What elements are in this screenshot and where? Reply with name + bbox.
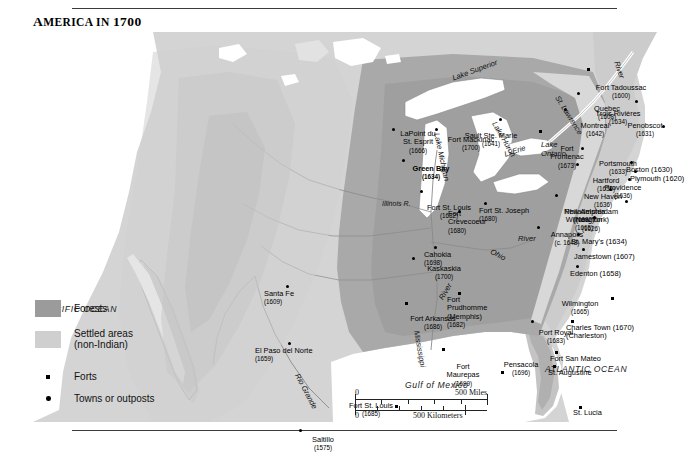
place-label: St. Augustine: [548, 369, 592, 377]
scale-tick: [465, 405, 466, 415]
legend-label-forts: Forts: [74, 371, 97, 382]
place-label: LaPoint duSt. Esprit(1666): [400, 130, 435, 155]
place-year: (1685): [362, 410, 380, 417]
place-label: Fort Arkansas(1686): [410, 315, 456, 332]
place-year: (1700): [435, 273, 453, 280]
title-year: 1700: [113, 14, 142, 29]
place-year: (1634): [609, 118, 627, 125]
place-year: (1634): [422, 173, 440, 180]
place-label: Green Bay(1634): [413, 165, 450, 182]
place-year: (1665): [571, 308, 589, 315]
scale-tick: [381, 399, 382, 404]
town-marker-sample: [35, 390, 61, 407]
place-year: (1600): [612, 92, 630, 99]
place-year: (1680): [479, 215, 497, 222]
legend-item-forests: Forests: [35, 300, 107, 317]
scale-miles-zero: 0: [355, 388, 359, 397]
place-label: Fort Tadoussac(1600): [596, 84, 646, 101]
town-marker: [662, 125, 665, 128]
legend-label-towns: Towns or outposts: [74, 393, 155, 404]
place-label: Montreal(1642): [581, 122, 610, 139]
scale-tick: [399, 406, 400, 411]
fort-marker: [395, 405, 398, 408]
place-year: (1633): [609, 168, 627, 175]
place-label: Edenton (1658): [570, 270, 621, 278]
legend-label-forests: Forests: [74, 303, 107, 314]
legend-label-settled: Settled areas (non-Indian): [74, 328, 133, 350]
place-label: Charles Town (1670)(Charleston): [566, 324, 634, 341]
place-year: (1575): [314, 444, 332, 451]
legend-item-settled: Settled areas (non-Indian): [35, 328, 133, 350]
water-label: River: [518, 234, 536, 243]
place-year: (1699): [454, 380, 472, 387]
title-initial: A: [33, 14, 43, 29]
place-label: Wilmington(1665): [562, 300, 599, 317]
fort-marker: [442, 348, 445, 351]
place-label: Fort San Mateo: [550, 355, 601, 363]
scale-tick: [408, 399, 409, 404]
place-year: (1700): [462, 144, 480, 151]
fort-marker: [611, 297, 614, 300]
title-text: MERICA IN: [43, 16, 113, 28]
place-year: (1609): [264, 298, 282, 305]
fort-marker: [587, 68, 590, 71]
place-label: Fort St. Joseph(1680): [479, 207, 529, 224]
place-year: (1680): [448, 227, 466, 234]
top-rule: [72, 8, 617, 9]
legend-label-settled-line1: Settled areas: [74, 328, 133, 339]
water-label: Illinois R.: [382, 200, 410, 207]
bottom-rule: [72, 430, 617, 431]
place-label: Penobscot(1631): [628, 122, 663, 139]
place-label: Port Royal(1683): [539, 329, 574, 346]
place-label: FortFrontenac(1673): [550, 145, 583, 170]
page-title: AMERICA IN 1700: [33, 14, 142, 30]
scale-line-miles: [355, 399, 487, 400]
scale-tick: [434, 399, 435, 404]
scale-tick: [377, 406, 378, 411]
settled-swatch: [35, 331, 61, 348]
place-year: (1666): [409, 147, 427, 154]
place-label: Fort St. Louis(1682): [427, 204, 471, 221]
fort-marker: [539, 130, 542, 133]
place-label: Pensacola(1696): [504, 361, 539, 378]
fort-marker: [405, 302, 408, 305]
place-year: (1659): [255, 355, 273, 362]
place-label: Santa Fe(1609): [264, 290, 294, 307]
place-label: Fort Mackinac(1700): [448, 136, 494, 153]
scale-km-zero: 0: [355, 411, 359, 420]
town-marker: [299, 429, 302, 432]
place-year: (1683): [547, 337, 565, 344]
place-year: (1682): [440, 212, 458, 219]
legend-label-settled-line2: (non-Indian): [74, 339, 128, 350]
place-label: Cahokia(1698): [424, 251, 451, 268]
legend-item-forts: Forts: [35, 368, 97, 385]
scale-tick: [461, 399, 462, 404]
scale-km-label: 500 Kilometers: [413, 411, 463, 420]
fort-marker-sample: [35, 368, 61, 385]
place-year: (1631): [636, 130, 654, 137]
place-label: FortMaurepas(1699): [447, 363, 480, 388]
place-label: St. Mary's (1634): [571, 238, 627, 246]
scale-miles-label: 500 Miles: [455, 388, 487, 397]
legend-item-towns: Towns or outposts: [35, 390, 155, 407]
place-year: (1696): [512, 369, 530, 376]
place-label: Saltillo(1575): [312, 436, 334, 453]
place-year: (1642): [586, 130, 604, 137]
place-year: (1686): [424, 323, 442, 330]
place-label: El Paso del Norte(1659): [255, 347, 313, 364]
place-label: St. Lucia: [573, 409, 602, 417]
place-label: Jamestown (1607): [574, 253, 635, 261]
place-year: (1698): [424, 259, 442, 266]
place-year: (1673): [558, 162, 576, 169]
forests-swatch: [35, 300, 61, 317]
